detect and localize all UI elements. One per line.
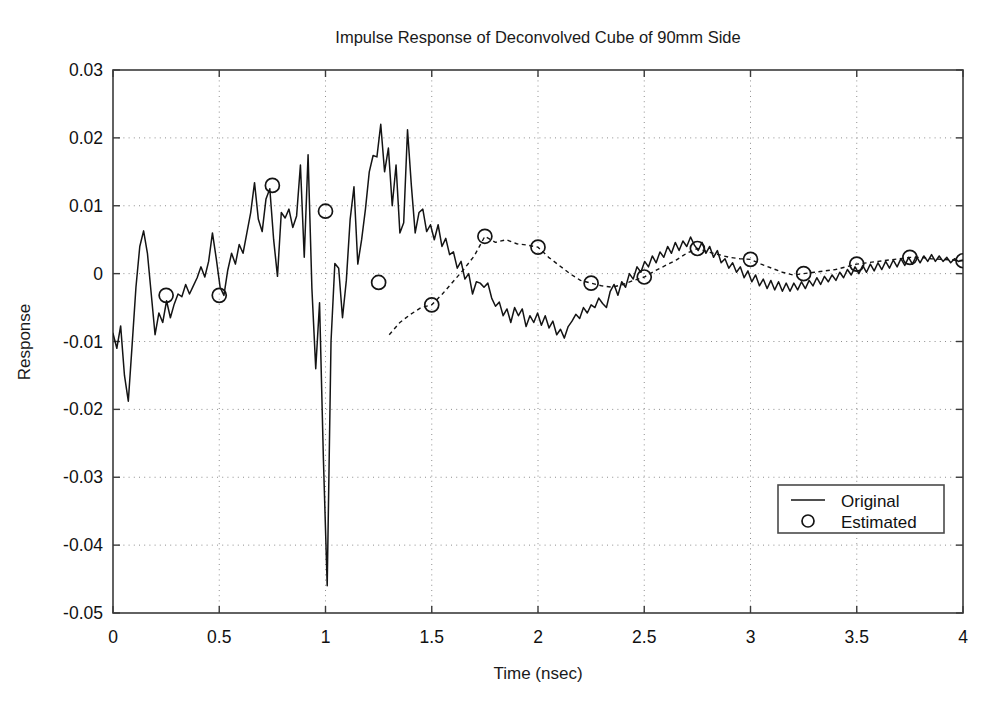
x-tick-label: 1.5 [420,627,444,647]
figure-container: Impulse Response of Deconvolved Cube of … [0,0,1003,701]
y-tick-label: -0.02 [63,399,103,419]
legend-label-original: Original [841,492,900,511]
series-estimated-markers [159,178,970,311]
y-tick-label: -0.01 [63,332,103,352]
y-tick-labels: 0.030.020.010-0.01-0.02-0.03-0.04-0.05 [63,60,103,623]
chart-legend: Original Estimated [778,485,944,533]
x-tick-label: 1 [321,627,331,647]
y-tick-label: 0.02 [69,128,103,148]
data-point-marker [744,252,758,266]
y-tick-label: 0 [93,264,103,284]
x-tick-label: 2.5 [632,627,656,647]
x-axis-label: Time (nsec) [493,664,582,683]
data-point-marker [372,275,386,289]
x-tick-label: 3.5 [845,627,869,647]
data-point-marker [478,229,492,243]
x-tick-label: 4 [958,627,968,647]
y-tick-label: 0.03 [69,60,103,80]
x-tick-label: 2 [533,627,543,647]
x-tick-label: 0 [108,627,118,647]
y-axis-label: Response [15,304,34,381]
legend-label-estimated: Estimated [841,513,917,532]
x-tick-labels: 00.511.522.533.54 [108,627,968,647]
y-tick-label: -0.04 [63,535,103,555]
x-tick-label: 3 [746,627,756,647]
data-point-marker [584,276,598,290]
x-tick-label: 0.5 [207,627,231,647]
y-tick-label: -0.03 [63,467,103,487]
impulse-response-chart: Impulse Response of Deconvolved Cube of … [0,0,1003,701]
data-point-marker [265,178,279,192]
chart-title: Impulse Response of Deconvolved Cube of … [335,28,740,46]
y-tick-label: -0.05 [63,603,103,623]
y-tick-label: 0.01 [69,196,103,216]
